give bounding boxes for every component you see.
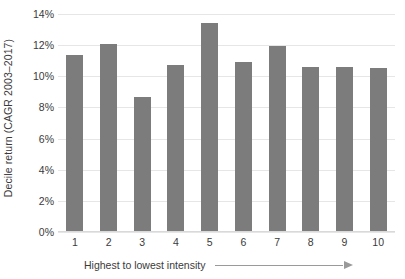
x-axis-tick-labels: 12345678910 xyxy=(58,236,395,252)
bar xyxy=(302,67,319,232)
bar xyxy=(235,62,252,233)
x-tick-label: 1 xyxy=(58,236,92,248)
y-axis-title-label: Decile return (CAGR 2003–2017) xyxy=(2,39,14,197)
bar xyxy=(167,65,184,232)
bar xyxy=(100,44,117,232)
y-tick-label: 8% xyxy=(39,101,54,113)
bar xyxy=(66,55,83,232)
bar xyxy=(134,97,151,232)
plot-area xyxy=(58,14,395,232)
bar-chart: Decile return (CAGR 2003–2017) 0%2%4%6%8… xyxy=(0,0,405,279)
y-axis-tick-labels: 0%2%4%6%8%10%12%14% xyxy=(18,8,54,234)
x-axis-title: Highest to lowest intensity xyxy=(58,256,395,274)
y-tick-label: 0% xyxy=(39,226,54,238)
y-axis-title: Decile return (CAGR 2003–2017) xyxy=(0,0,16,236)
arrow-right-icon xyxy=(215,261,353,270)
arrow-shaft xyxy=(215,265,343,266)
y-tick-label: 2% xyxy=(39,195,54,207)
y-tick-label: 14% xyxy=(33,8,54,20)
y-tick-label: 10% xyxy=(33,70,54,82)
x-tick-label: 4 xyxy=(159,236,193,248)
x-tick-label: 6 xyxy=(226,236,260,248)
y-tick-label: 12% xyxy=(33,39,54,51)
x-tick-label: 2 xyxy=(92,236,126,248)
x-axis-title-label: Highest to lowest intensity xyxy=(84,259,205,271)
x-tick-label: 5 xyxy=(193,236,227,248)
bar xyxy=(370,68,387,232)
x-tick-label: 8 xyxy=(294,236,328,248)
x-tick-label: 10 xyxy=(361,236,395,248)
bar xyxy=(201,23,218,232)
x-axis-baseline xyxy=(58,231,395,232)
gridline xyxy=(58,232,395,233)
arrow-head xyxy=(344,261,353,269)
x-tick-label: 7 xyxy=(260,236,294,248)
x-tick-label: 9 xyxy=(327,236,361,248)
x-tick-label: 3 xyxy=(125,236,159,248)
y-tick-label: 4% xyxy=(39,164,54,176)
bar xyxy=(269,46,286,232)
bar xyxy=(336,67,353,232)
bars-group xyxy=(58,14,395,232)
y-tick-label: 6% xyxy=(39,133,54,145)
